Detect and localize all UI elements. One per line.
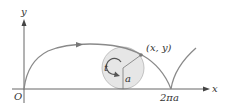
cycloid-diagram: y x O (x, y) t a 2πa [0, 0, 225, 108]
direction-arrow-icon [76, 42, 83, 47]
period-label: 2πa [159, 92, 179, 103]
point-label: (x, y) [146, 42, 172, 53]
point-marker [139, 53, 143, 57]
x-axis-arrow-icon [203, 87, 210, 92]
origin-label: O [14, 91, 22, 102]
y-axis-arrow-icon [22, 19, 27, 26]
radius-label: a [125, 73, 131, 84]
cycloid-curve-next-arch [171, 48, 196, 89]
x-axis-label: x [212, 83, 218, 94]
y-axis-label: y [20, 6, 27, 17]
